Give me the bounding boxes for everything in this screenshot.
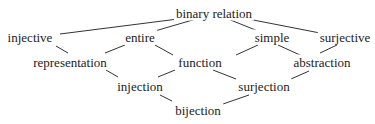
edge-surjection-to-bijection [223, 95, 249, 104]
node-surjective: surjective [318, 30, 373, 45]
edge-simple-to-function [236, 45, 258, 55]
edge-representation-to-injection [106, 70, 118, 77]
edge-function-to-injection [158, 70, 175, 77]
node-bijection: bijection [173, 103, 223, 118]
node-surjection: surjection [236, 79, 291, 94]
edge-function-to-surjection [213, 70, 236, 79]
edge-abstraction-to-surjection [291, 71, 309, 79]
node-binary-relation: binary relation [174, 6, 254, 21]
edge-injection-to-bijection [160, 95, 172, 101]
node-representation: representation [31, 55, 109, 70]
edge-injective-to-representation [56, 46, 68, 53]
node-function: function [176, 55, 223, 70]
edge-simple-to-abstraction [278, 45, 300, 55]
node-entire: entire [123, 30, 157, 45]
node-simple: simple [253, 30, 292, 45]
node-injection: injection [115, 79, 165, 94]
node-abstraction: abstraction [291, 55, 352, 70]
node-injective: injective [6, 30, 55, 45]
relation-lattice-diagram: binary relationinjectiveentiresimplesurj… [0, 0, 375, 124]
edge-surjective-to-abstraction [320, 45, 337, 53]
edge-binary-relation-to-injective [60, 19, 178, 34]
edge-entire-to-representation [105, 45, 125, 53]
edge-entire-to-function [155, 45, 173, 55]
